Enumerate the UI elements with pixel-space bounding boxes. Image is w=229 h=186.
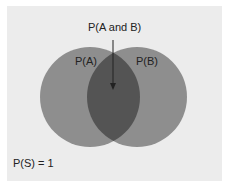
set-a-label: P(A): [75, 55, 97, 67]
sample-space-label: P(S) = 1: [13, 157, 54, 169]
intersection-label: P(A and B): [88, 21, 141, 33]
set-b-label: P(B): [136, 55, 158, 67]
